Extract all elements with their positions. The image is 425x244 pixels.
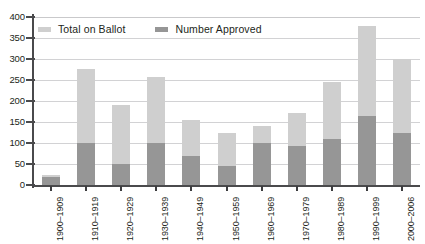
chart-legend: Total on BallotNumber Approved — [38, 23, 262, 35]
bar-group[interactable] — [393, 17, 411, 185]
bar-group[interactable] — [218, 17, 236, 185]
bar-segment-number-approved[interactable] — [42, 177, 60, 185]
bar-segment-number-approved[interactable] — [147, 143, 165, 185]
x-axis-tick-label: 1980–1989 — [336, 197, 346, 241]
bar-group[interactable] — [147, 17, 165, 185]
bar-group[interactable] — [77, 17, 95, 185]
y-axis-tick — [26, 100, 35, 102]
x-axis-tick-label: 1920–1929 — [125, 197, 135, 241]
x-axis-tick — [331, 186, 333, 191]
y-axis-tick-label: 150 — [1, 116, 25, 127]
bar-group[interactable] — [42, 17, 60, 185]
x-axis-tick — [366, 186, 368, 191]
top-caption — [0, 0, 425, 9]
y-axis-tick — [26, 79, 35, 81]
x-axis-tick — [226, 186, 228, 191]
legend-item-label: Total on Ballot — [58, 23, 125, 35]
legend-item[interactable]: Total on Ballot — [38, 23, 125, 35]
legend-item-label: Number Approved — [175, 23, 261, 35]
legend-item[interactable]: Number Approved — [155, 23, 261, 35]
y-axis-tick-label: 0 — [1, 179, 25, 190]
bar-group[interactable] — [182, 17, 200, 185]
x-axis-tick-label: 2000–2006 — [406, 197, 416, 241]
y-axis-tick-label: 400 — [1, 11, 25, 22]
x-axis-tick-label: 1900–1909 — [55, 197, 65, 241]
y-axis-labels: 400350300250200150100500 — [0, 0, 25, 244]
legend-swatch-total-on-ballot — [38, 27, 51, 32]
x-axis-tick-label: 1960–1969 — [266, 197, 276, 241]
x-axis-tick-label: 1950–1959 — [231, 197, 241, 241]
bar-segment-number-approved[interactable] — [182, 156, 200, 185]
y-axis-tick — [26, 37, 35, 39]
y-axis-tick — [26, 16, 35, 18]
y-axis-tick — [26, 142, 35, 144]
x-axis-tick — [155, 186, 157, 191]
x-axis-tick-label: 1940–1949 — [195, 197, 205, 241]
y-axis-tick-label: 200 — [1, 95, 25, 106]
y-axis-tick-label: 350 — [1, 32, 25, 43]
bar-group[interactable] — [288, 17, 306, 185]
y-axis-tick — [26, 58, 35, 60]
bar-group[interactable] — [253, 17, 271, 185]
bar-segment-number-approved[interactable] — [288, 146, 306, 185]
bar-group[interactable] — [112, 17, 130, 185]
bar-segment-number-approved[interactable] — [218, 166, 236, 185]
x-axis-tick — [50, 186, 52, 191]
plot-area — [33, 17, 420, 185]
x-axis-tick — [85, 186, 87, 191]
x-axis-tick — [120, 186, 122, 191]
bar-segment-number-approved[interactable] — [393, 133, 411, 185]
bar-group[interactable] — [323, 17, 341, 185]
bar-segment-number-approved[interactable] — [358, 116, 376, 185]
bar-segment-number-approved[interactable] — [323, 139, 341, 185]
bar-segment-number-approved[interactable] — [112, 164, 130, 185]
bar-group[interactable] — [358, 17, 376, 185]
x-axis-tick-label: 1930–1939 — [160, 197, 170, 241]
x-axis-tick — [401, 186, 403, 191]
y-axis-tick-label: 300 — [1, 53, 25, 64]
bar-segment-number-approved[interactable] — [253, 143, 271, 185]
y-axis-tick — [26, 121, 35, 123]
x-axis-tick — [190, 186, 192, 191]
y-axis-tick-label: 100 — [1, 137, 25, 148]
x-axis-tick-label: 1990–1999 — [371, 197, 381, 241]
x-axis-tick-label: 1970–1979 — [301, 197, 311, 241]
y-axis-tick-label: 250 — [1, 74, 25, 85]
y-axis-tick — [26, 184, 35, 186]
x-axis-tick-label: 1910–1919 — [90, 197, 100, 241]
x-axis-tick — [261, 186, 263, 191]
y-axis-tick — [26, 163, 35, 165]
legend-swatch-number-approved — [155, 27, 168, 32]
y-axis-tick-label: 50 — [1, 158, 25, 169]
bar-segment-number-approved[interactable] — [77, 143, 95, 185]
x-axis-tick — [296, 186, 298, 191]
chart-figure: 400350300250200150100500 Total on Ballot… — [0, 0, 425, 244]
